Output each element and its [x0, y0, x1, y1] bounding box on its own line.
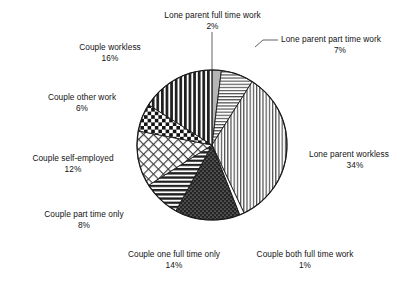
leader-lines-group: [212, 32, 278, 70]
slice-label-couple-part-time: Couple part time only 8%: [28, 209, 140, 230]
pie-slices-group: [137, 70, 287, 220]
slice-label-couple-self-employed: Couple self-employed 12%: [14, 153, 132, 174]
slice-label-percent: 12%: [14, 164, 132, 175]
slice-label-name: Couple other work: [30, 92, 134, 103]
slice-label-percent: 8%: [28, 220, 140, 231]
slice-label-percent: 1%: [241, 260, 369, 271]
slice-label-percent: 14%: [113, 260, 235, 271]
slice-label-lone-parent-full-time: Lone parent full time work 2%: [150, 10, 275, 31]
slice-label-name: Couple one full time only: [113, 249, 235, 260]
slice-label-couple-other-work: Couple other work 6%: [30, 92, 134, 113]
slice-label-name: Couple both full time work: [241, 249, 369, 260]
slice-label-percent: 2%: [150, 21, 275, 32]
slice-label-percent: 34%: [309, 160, 401, 171]
slice-label-name: Couple workless: [62, 42, 158, 53]
slice-label-lone-parent-part-time: Lone parent part time work 7%: [281, 34, 409, 55]
slice-label-couple-both-full-time: Couple both full time work 1%: [241, 249, 369, 270]
slice-label-name: Couple part time only: [28, 209, 140, 220]
slice-label-percent: 16%: [62, 53, 158, 64]
slice-label-lone-parent-workless: Lone parent workless 34%: [309, 149, 409, 170]
slice-label-couple-workless: Couple workless 16%: [62, 42, 158, 63]
slice-label-name: Lone parent workless: [309, 149, 409, 160]
slice-label-name: Lone parent part time work: [281, 34, 409, 45]
slice-label-name: Couple self-employed: [14, 153, 132, 164]
slice-label-couple-one-full-time: Couple one full time only 14%: [113, 249, 235, 270]
pie-chart-figure: Lone parent full time work 2% Lone paren…: [0, 0, 410, 283]
leader-line-lone-parent-part-time: [255, 40, 278, 47]
slice-label-percent: 6%: [30, 103, 134, 114]
slice-label-name: Lone parent full time work: [150, 10, 275, 21]
slice-label-percent: 7%: [281, 45, 399, 56]
